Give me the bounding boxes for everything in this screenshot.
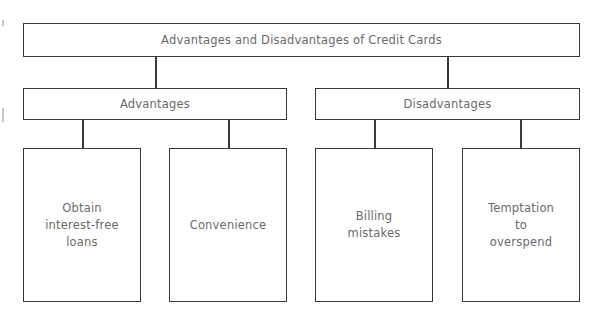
item-label: Billing mistakes <box>348 208 401 242</box>
item-label: Obtain interest-free loans <box>45 200 119 251</box>
disadvantages-label: Disadvantages <box>403 96 491 113</box>
connector-disadvantages-item-2 <box>520 120 522 148</box>
connector-root-disadvantages <box>447 57 449 88</box>
edge-mark-bottom <box>2 108 4 122</box>
item-box-temptation-to-overspend: Temptation to overspend <box>462 148 580 302</box>
connector-disadvantages-item-1 <box>374 120 376 148</box>
root-title: Advantages and Disadvantages of Credit C… <box>161 32 442 49</box>
advantages-box: Advantages <box>23 88 287 120</box>
disadvantages-box: Disadvantages <box>315 88 580 120</box>
item-box-interest-free-loans: Obtain interest-free loans <box>23 148 141 302</box>
advantages-label: Advantages <box>120 96 190 113</box>
connector-advantages-item-1 <box>82 120 84 148</box>
edge-mark-top <box>2 20 4 26</box>
root-title-box: Advantages and Disadvantages of Credit C… <box>23 23 580 57</box>
item-box-billing-mistakes: Billing mistakes <box>315 148 433 302</box>
item-label: Convenience <box>190 217 267 234</box>
connector-root-advantages <box>155 57 157 88</box>
connector-advantages-item-2 <box>228 120 230 148</box>
item-label: Temptation to overspend <box>488 200 554 251</box>
item-box-convenience: Convenience <box>169 148 287 302</box>
